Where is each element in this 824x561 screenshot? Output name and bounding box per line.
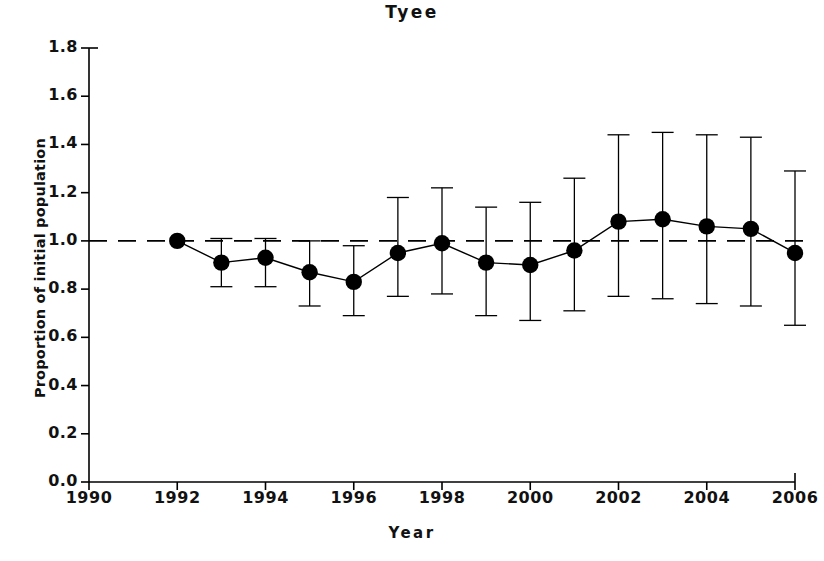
data-point-marker — [257, 250, 273, 266]
y-tick-label: 1.4 — [14, 133, 78, 152]
x-tick-label: 2004 — [662, 488, 752, 507]
y-tick-label: 1.0 — [14, 230, 78, 249]
data-point-marker — [566, 242, 582, 258]
data-point-marker — [390, 245, 406, 261]
x-tick-label: 1996 — [309, 488, 399, 507]
x-tick-label: 1998 — [397, 488, 487, 507]
data-point-marker — [743, 221, 759, 237]
data-point-marker — [610, 213, 626, 229]
data-point-marker — [301, 264, 317, 280]
data-point-marker — [478, 254, 494, 270]
data-point-marker — [654, 211, 670, 227]
data-point-marker — [346, 274, 362, 290]
data-point-marker — [213, 254, 229, 270]
data-point-marker — [522, 257, 538, 273]
y-tick-label: 1.8 — [14, 37, 78, 56]
data-point-marker — [699, 218, 715, 234]
plot-area — [0, 0, 824, 561]
x-tick-label: 1994 — [221, 488, 311, 507]
data-point-marker — [787, 245, 803, 261]
y-tick-label: 0.4 — [14, 375, 78, 394]
data-point-marker — [169, 233, 185, 249]
y-tick-label: 0.6 — [14, 326, 78, 345]
y-tick-label: 1.2 — [14, 182, 78, 201]
y-tick-label: 0.2 — [14, 423, 78, 442]
data-point-marker — [434, 235, 450, 251]
x-tick-label: 2006 — [750, 488, 824, 507]
y-tick-label: 0.8 — [14, 278, 78, 297]
chart-figure: Tyee Proportion of initial population Ye… — [0, 0, 824, 561]
x-tick-label: 1992 — [132, 488, 222, 507]
x-tick-label: 2002 — [574, 488, 664, 507]
x-tick-label: 1990 — [44, 488, 134, 507]
x-tick-label: 2000 — [485, 488, 575, 507]
y-tick-label: 1.6 — [14, 85, 78, 104]
